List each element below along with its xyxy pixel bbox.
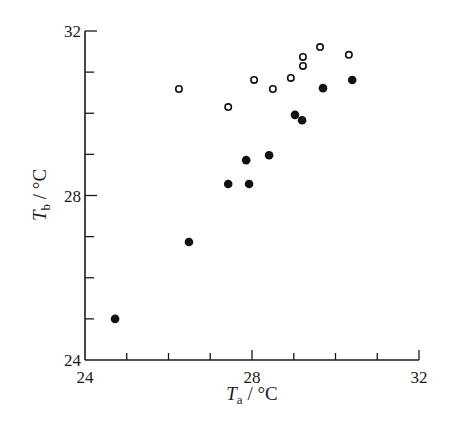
filled-circle-point	[348, 76, 357, 85]
x-tick-label: 32	[411, 368, 428, 387]
filled-circle-point	[224, 180, 233, 189]
ticks: 242832242832	[64, 22, 428, 387]
y-tick-label: 28	[64, 187, 81, 206]
filled-circle-point	[291, 111, 300, 120]
filled-circle-point	[111, 315, 120, 324]
open-circle-point	[176, 86, 182, 92]
x-axis-label: Ta / °C	[226, 383, 277, 407]
open-circle-point	[288, 75, 294, 81]
filled-circle-point	[242, 156, 251, 165]
open-circle-point	[346, 52, 352, 58]
y-axis-label: Tb / °C	[29, 169, 53, 221]
filled-circle-point	[245, 180, 254, 189]
y-tick-label: 24	[64, 351, 82, 370]
open-circle-point	[300, 63, 306, 69]
open-circle-point	[251, 77, 257, 83]
filled-circle-point	[319, 84, 328, 93]
y-tick-label: 32	[64, 22, 81, 41]
filled-circle-point	[298, 116, 307, 125]
open-circle-point	[317, 44, 323, 50]
filled-circle-point	[265, 151, 274, 160]
open-circle-point	[225, 104, 231, 110]
x-tick-label: 24	[77, 368, 95, 387]
scatter-chart: 242832242832 Ta / °C Tb / °C	[0, 0, 452, 426]
data-points	[111, 44, 357, 323]
filled-circle-point	[185, 238, 194, 247]
open-circle-point	[300, 54, 306, 60]
open-circle-point	[270, 86, 276, 92]
